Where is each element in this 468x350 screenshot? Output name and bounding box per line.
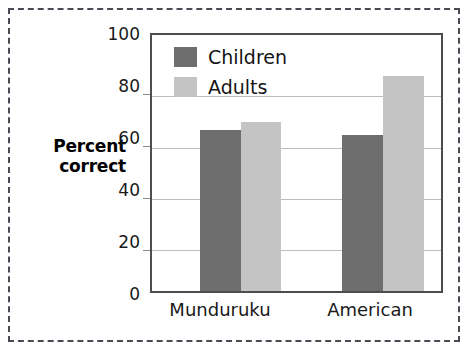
- x-tick-label-american: American: [315, 299, 425, 320]
- y-tick-label-0: 0: [94, 286, 140, 303]
- y-tick-label-100: 100: [94, 26, 140, 43]
- legend-swatch-adults: [174, 77, 197, 97]
- legend-entry-children: Children: [174, 42, 287, 72]
- legend: Children Adults: [174, 42, 287, 102]
- y-tick-mark-20: [143, 250, 150, 251]
- legend-swatch-children: [174, 47, 197, 67]
- bar-american-children: [342, 135, 383, 291]
- y-axis-title-line-2: correct: [14, 156, 126, 176]
- x-tick-label-munduruku: Munduruku: [160, 299, 280, 320]
- plot-area: Children Adults: [150, 33, 443, 293]
- y-tick-mark-60: [143, 146, 150, 147]
- figure: Percent correct 100 80 60 40 20 0 Childr…: [0, 0, 468, 350]
- legend-label-adults: Adults: [208, 78, 267, 97]
- y-tick-label-80: 80: [94, 78, 140, 95]
- y-tick-mark-80: [143, 94, 150, 95]
- y-tick-mark-40: [143, 198, 150, 199]
- legend-entry-adults: Adults: [174, 72, 287, 102]
- bar-munduruku-children: [200, 130, 241, 291]
- bar-american-adults: [383, 76, 424, 291]
- y-tick-label-60: 60: [94, 130, 140, 147]
- bar-munduruku-adults: [241, 122, 281, 291]
- y-tick-label-20: 20: [94, 234, 140, 251]
- legend-label-children: Children: [208, 48, 287, 67]
- y-tick-label-40: 40: [94, 182, 140, 199]
